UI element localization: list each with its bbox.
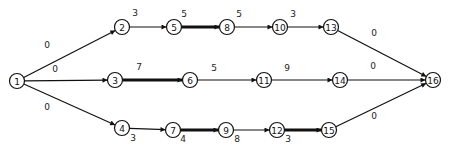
node-label: 14 bbox=[334, 76, 346, 86]
node-label: 5 bbox=[171, 23, 177, 33]
node-12: 12 bbox=[270, 123, 285, 138]
edge-weight-label: 0 bbox=[44, 40, 50, 50]
edge-4-7 bbox=[129, 128, 165, 129]
edge-weight-label: 5 bbox=[211, 63, 217, 73]
node-2: 2 bbox=[115, 20, 130, 35]
edge-1-4 bbox=[24, 84, 115, 125]
edge-weight-label: 9 bbox=[284, 63, 290, 73]
edge-weight-label: 3 bbox=[285, 134, 291, 144]
node-label: 2 bbox=[119, 23, 125, 33]
node-15: 15 bbox=[322, 123, 337, 138]
node-8: 8 bbox=[220, 20, 235, 35]
edge-weight-label: 5 bbox=[181, 9, 187, 19]
node-13: 13 bbox=[324, 20, 339, 35]
node-label: 11 bbox=[258, 76, 269, 86]
network-diagram: 00035530759034830 1258101336111416479121… bbox=[0, 0, 452, 147]
node-label: 3 bbox=[112, 76, 118, 86]
edge-15-16 bbox=[336, 83, 426, 127]
edge-weight-label: 4 bbox=[180, 134, 186, 144]
node-4: 4 bbox=[115, 121, 130, 136]
edge-weight-label: 3 bbox=[130, 133, 136, 143]
node-5: 5 bbox=[167, 20, 182, 35]
edge-1-3 bbox=[24, 80, 107, 81]
node-14: 14 bbox=[333, 73, 348, 88]
edge-weight-label: 3 bbox=[290, 9, 296, 19]
node-6: 6 bbox=[183, 73, 198, 88]
edge-weight-label: 8 bbox=[234, 134, 240, 144]
node-label: 13 bbox=[325, 23, 336, 33]
edge-weight-label: 0 bbox=[370, 61, 376, 71]
node-label: 1 bbox=[14, 77, 20, 87]
node-11: 11 bbox=[257, 73, 272, 88]
node-label: 7 bbox=[170, 126, 176, 136]
node-7: 7 bbox=[166, 123, 181, 138]
edge-weight-label: 7 bbox=[136, 62, 142, 72]
node-1: 1 bbox=[10, 74, 25, 89]
edge-weight-label: 0 bbox=[52, 64, 58, 74]
node-label: 4 bbox=[119, 124, 125, 134]
node-10: 10 bbox=[273, 20, 288, 35]
edge-1-2 bbox=[24, 30, 116, 77]
edge-weight-label: 0 bbox=[371, 28, 377, 38]
node-label: 10 bbox=[274, 23, 286, 33]
node-label: 15 bbox=[323, 126, 334, 136]
node-label: 6 bbox=[187, 76, 193, 86]
node-label: 16 bbox=[427, 76, 439, 86]
edge-13-16 bbox=[338, 30, 427, 76]
edge-weight-label: 0 bbox=[44, 102, 50, 112]
edge-weight-label: 0 bbox=[371, 111, 377, 121]
node-9: 9 bbox=[219, 123, 234, 138]
node-3: 3 bbox=[108, 73, 123, 88]
node-label: 8 bbox=[224, 23, 230, 33]
edges-layer bbox=[24, 27, 427, 130]
edge-weight-label: 3 bbox=[132, 8, 138, 18]
node-label: 12 bbox=[271, 126, 282, 136]
node-16: 16 bbox=[426, 73, 441, 88]
node-label: 9 bbox=[223, 126, 229, 136]
edge-weight-label: 5 bbox=[236, 9, 242, 19]
